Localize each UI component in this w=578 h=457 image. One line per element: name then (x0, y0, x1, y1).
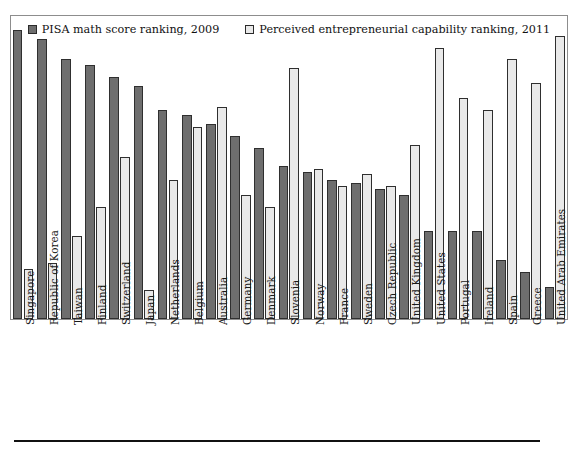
bar-pisa (327, 180, 337, 319)
x-tick-label: Slovenia (289, 280, 301, 325)
x-tick-label: Spain (507, 295, 519, 325)
bar-pisa (472, 231, 482, 320)
bar-pisa (230, 136, 240, 319)
bar-group (519, 16, 543, 319)
bar-group (84, 16, 108, 319)
bar-group (349, 16, 373, 319)
x-tick-label: Finland (96, 285, 108, 325)
bar-pisa (279, 166, 289, 319)
bar-pisa (206, 124, 216, 319)
bar-group (229, 16, 253, 319)
bar-group (204, 16, 228, 319)
x-tick-label: Japan (144, 295, 156, 325)
x-tick-label: United Kingdom (410, 238, 422, 325)
bar-group (253, 16, 277, 319)
x-tick-label: Taiwan (72, 287, 84, 325)
x-tick-label: Ireland (483, 287, 495, 325)
x-tick-label: Portugal (459, 280, 471, 325)
bar-pisa (13, 30, 23, 319)
bar-group (132, 16, 156, 319)
bar-pisa (182, 115, 192, 319)
x-tick-label: United Arab Emirates (555, 209, 567, 325)
bar-group (59, 16, 83, 319)
bar-pisa (351, 183, 361, 319)
bar-pisa (85, 65, 95, 319)
x-tick-label: United States (435, 252, 447, 325)
bar-pisa (399, 195, 409, 319)
bar-pisa (448, 231, 458, 320)
x-tick-label: Denmark (265, 276, 277, 325)
bar-pisa (109, 77, 119, 319)
bar-pisa (303, 172, 313, 320)
bar-group (277, 16, 301, 319)
footer-rule (14, 440, 540, 442)
x-tick-label: Sweden (362, 283, 374, 325)
x-axis-labels: SingaporeRepublic of KoreaTaiwanFinlandS… (11, 322, 567, 442)
bar-pisa (61, 59, 71, 319)
bar-group (494, 16, 518, 319)
bar-pisa (424, 231, 434, 320)
x-tick-label: Norway (314, 283, 326, 325)
bar-pisa (134, 86, 144, 319)
bar-group (180, 16, 204, 319)
x-tick-label: Switzerland (120, 262, 132, 326)
bar-perceived (507, 59, 517, 319)
x-tick-label: Czech Republic (386, 243, 398, 325)
bar-pisa (496, 260, 506, 319)
bar-pisa (37, 39, 47, 319)
bar-group (470, 16, 494, 319)
bar-pisa (520, 272, 530, 319)
x-tick-label: Australia (217, 277, 229, 325)
chart-figure: PISA math score ranking, 2009 Perceived … (0, 0, 578, 457)
bars-container (11, 16, 567, 319)
x-tick-label: Singapore (24, 271, 36, 325)
bar-group (325, 16, 349, 319)
x-tick-label: France (338, 288, 350, 325)
bar-pisa (254, 148, 264, 319)
bar-group (446, 16, 470, 319)
bar-group (301, 16, 325, 319)
x-tick-label: Netherlands (169, 259, 181, 325)
x-tick-label: Greece (531, 287, 543, 325)
bar-pisa (158, 110, 168, 319)
x-tick-label: Germany (241, 277, 253, 325)
bar-pisa (375, 189, 385, 319)
x-tick-label: Belgium (193, 281, 205, 325)
bar-perceived (531, 83, 541, 319)
x-tick-label: Republic of Korea (48, 230, 60, 325)
bar-pisa (545, 287, 555, 319)
